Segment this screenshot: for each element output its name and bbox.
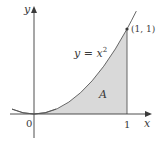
equation-exponent: 2 <box>103 46 107 54</box>
area-diagram: y x 0 1 (1, 1) y = x2 A <box>0 0 158 141</box>
origin-label: 0 <box>26 118 32 129</box>
region-label-a: A <box>98 88 107 101</box>
point-1-1 <box>125 27 128 30</box>
equation-lhs: y = x <box>73 47 103 60</box>
shaded-region-a <box>34 29 127 114</box>
x-tick-label-1: 1 <box>124 119 130 130</box>
x-axis-label: x <box>144 117 151 130</box>
point-label: (1, 1) <box>131 24 155 34</box>
parabola-curve-left <box>12 109 34 114</box>
equation-label: y = x2 <box>73 46 107 60</box>
y-axis-label: y <box>23 3 31 16</box>
y-axis-arrow-icon <box>31 6 37 13</box>
